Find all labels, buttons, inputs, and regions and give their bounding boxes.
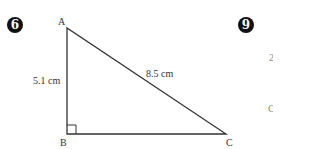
partial-label-2: C — [268, 104, 273, 114]
side-length-ab: 5.1 cm — [33, 76, 60, 86]
partial-label-1: 2 — [269, 53, 273, 63]
vertex-label-b: B — [60, 138, 67, 148]
vertex-label-c: C — [226, 138, 233, 148]
right-angle-marker — [67, 125, 76, 134]
side-length-ac: 8.5 cm — [146, 69, 173, 79]
vertex-label-a: A — [58, 17, 65, 27]
triangle-abc — [67, 28, 226, 134]
problem-number-badge-9: 9 — [238, 17, 254, 33]
